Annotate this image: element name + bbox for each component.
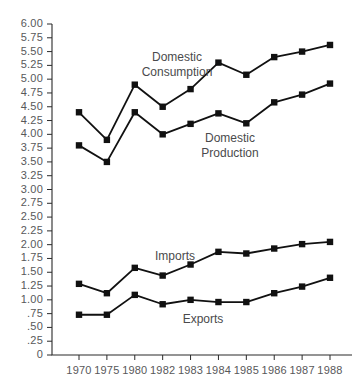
- y-axis-tick-label: .25: [27, 334, 43, 346]
- y-axis-tick-label: 4.75: [21, 86, 43, 98]
- y-axis-tick-label: 2.50: [21, 210, 43, 222]
- data-point-marker: [243, 299, 249, 305]
- data-point-marker: [299, 283, 305, 289]
- y-axis-tick-label: 3.25: [21, 169, 43, 181]
- series-annotation-line: Exports: [143, 312, 263, 327]
- data-point-marker: [187, 121, 193, 127]
- data-point-marker: [159, 104, 165, 110]
- y-axis-tick-label: 3.50: [21, 155, 43, 167]
- y-axis-tick-label: 1.50: [21, 265, 43, 277]
- data-point-marker: [132, 81, 138, 87]
- y-axis-tick-label: 6.00: [21, 17, 43, 29]
- series-annotation-line: Production: [170, 146, 290, 161]
- data-point-marker: [76, 109, 82, 115]
- series-annotation-label: DomesticConsumption: [117, 50, 237, 80]
- data-point-marker: [76, 142, 82, 148]
- y-axis-tick-label: 4.50: [21, 100, 43, 112]
- y-axis-tick-label: 1.75: [21, 251, 43, 263]
- x-axis-tick-label: 1988: [312, 364, 348, 376]
- y-axis-tick-label: 4.00: [21, 127, 43, 139]
- data-point-marker: [132, 109, 138, 115]
- data-point-marker: [104, 137, 110, 143]
- y-axis-tick-label: 2.75: [21, 196, 43, 208]
- series-annotation-label: DomesticProduction: [170, 131, 290, 161]
- data-point-marker: [159, 272, 165, 278]
- y-axis-tick-label: 3.00: [21, 183, 43, 195]
- data-point-marker: [187, 86, 193, 92]
- series-annotation-label: Exports: [143, 312, 263, 327]
- data-point-marker: [299, 241, 305, 247]
- series-annotation-line: Domestic: [117, 50, 237, 65]
- data-point-marker: [159, 301, 165, 307]
- data-point-marker: [76, 281, 82, 287]
- data-point-marker: [159, 131, 165, 137]
- y-axis-tick-label: 2.25: [21, 224, 43, 236]
- data-point-marker: [299, 48, 305, 54]
- y-axis-tick-label: 5.25: [21, 58, 43, 70]
- data-point-marker: [271, 290, 277, 296]
- y-axis-tick-label: 3.75: [21, 141, 43, 153]
- y-axis-tick-label: 0: [37, 348, 43, 360]
- data-point-marker: [132, 292, 138, 298]
- data-point-marker: [271, 99, 277, 105]
- data-point-marker: [104, 312, 110, 318]
- data-point-marker: [243, 120, 249, 126]
- data-point-marker: [299, 91, 305, 97]
- y-axis-tick-label: 4.25: [21, 114, 43, 126]
- data-point-marker: [327, 275, 333, 281]
- series-annotation-line: Consumption: [117, 65, 237, 80]
- y-axis-tick-label: 5.00: [21, 72, 43, 84]
- data-point-marker: [327, 239, 333, 245]
- series-annotation-line: Domestic: [170, 131, 290, 146]
- data-point-marker: [215, 299, 221, 305]
- data-point-marker: [327, 80, 333, 86]
- data-point-marker: [271, 245, 277, 251]
- data-point-marker: [132, 265, 138, 271]
- data-point-marker: [243, 72, 249, 78]
- data-point-marker: [327, 42, 333, 48]
- data-point-marker: [187, 297, 193, 303]
- data-point-marker: [104, 290, 110, 296]
- data-point-marker: [76, 312, 82, 318]
- data-point-marker: [215, 110, 221, 116]
- y-axis-tick-label: 1.25: [21, 279, 43, 291]
- y-axis-tick-label: 1.00: [21, 293, 43, 305]
- data-point-marker: [243, 250, 249, 256]
- y-axis-tick-label: 5.75: [21, 31, 43, 43]
- data-point-marker: [271, 54, 277, 60]
- line-chart: 6.005.755.505.255.004.754.504.254.003.75…: [0, 0, 362, 385]
- y-axis-tick-label: .50: [27, 320, 43, 332]
- series-annotation-line: Imports: [115, 249, 235, 264]
- series-annotation-label: Imports: [115, 249, 235, 264]
- y-axis-tick-label: 2.00: [21, 238, 43, 250]
- y-axis-tick-label: 5.50: [21, 45, 43, 57]
- y-axis-tick-label: .75: [27, 307, 43, 319]
- data-point-marker: [104, 159, 110, 165]
